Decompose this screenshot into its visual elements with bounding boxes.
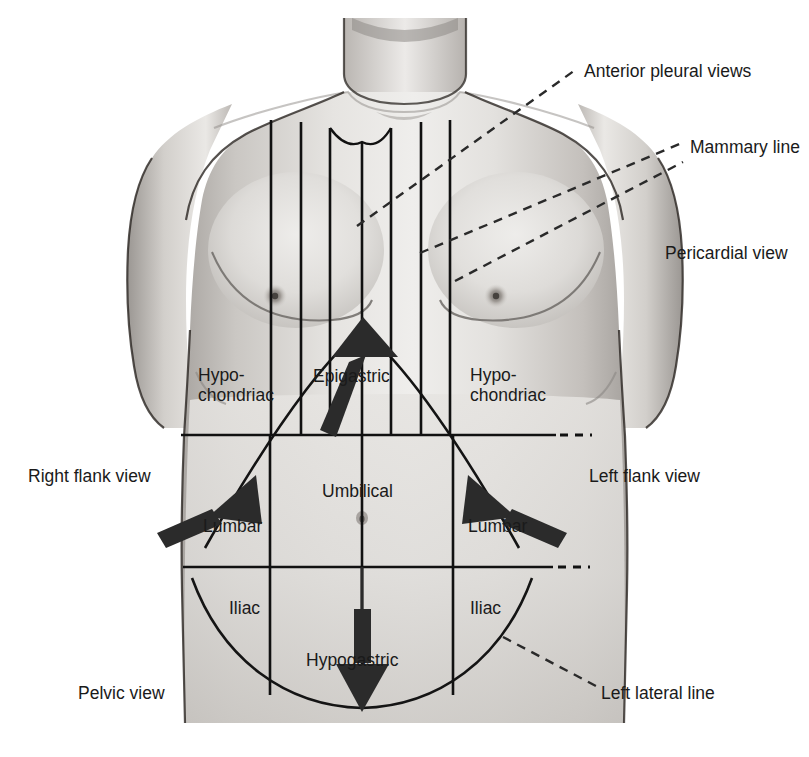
nipple-left-center <box>493 293 499 299</box>
label-umbilical: Umbilical <box>322 481 393 502</box>
label-iliac-left: Iliac <box>470 598 501 619</box>
pectoral-right <box>208 172 384 328</box>
anatomy-illustration <box>0 0 809 757</box>
label-left-flank-view: Left flank view <box>589 466 700 487</box>
label-left-lateral-line: Left lateral line <box>601 683 715 704</box>
label-pelvic-view: Pelvic view <box>78 683 165 704</box>
label-pericardial-view: Pericardial view <box>665 243 788 264</box>
label-lumbar-left: Lumbar <box>468 516 527 537</box>
label-hypogastric: Hypogastric <box>306 650 398 671</box>
label-lumbar-right: Lumbar <box>203 516 262 537</box>
nipple-right-center <box>272 293 278 299</box>
label-anterior-pleural-views: Anterior pleural views <box>584 61 751 82</box>
label-iliac-right: Iliac <box>229 598 260 619</box>
label-right-flank-view: Right flank view <box>28 466 151 487</box>
label-hypochondriac-left: Hypo- chondriac <box>470 366 546 405</box>
label-epigastric: Epigastric <box>313 366 390 387</box>
figure-canvas: Anterior pleural views Mammary line Peri… <box>0 0 809 757</box>
label-hypochondriac-right: Hypo- chondriac <box>198 366 274 405</box>
label-mammary-line: Mammary line <box>690 137 800 158</box>
abdomen-shading <box>184 394 624 723</box>
